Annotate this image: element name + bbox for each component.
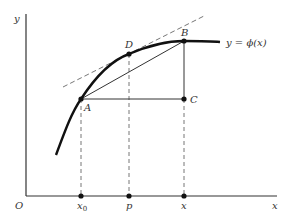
curve-label: y = ϕ(x) <box>225 37 267 48</box>
point-b <box>181 38 186 43</box>
label-a: A <box>83 102 91 113</box>
label-c: C <box>190 94 198 105</box>
point-p <box>126 193 131 198</box>
point-c <box>181 96 186 101</box>
tick-label-x0: x0 <box>77 200 87 213</box>
label-b: B <box>180 27 188 38</box>
tick-label-x: x <box>181 200 187 211</box>
point-d <box>126 51 131 56</box>
label-d: D <box>124 39 133 50</box>
mean-value-diagram: y O x A D B C y = ϕ(x) x0 p x <box>0 0 291 218</box>
origin-label: O <box>15 200 23 211</box>
point-x <box>181 193 186 198</box>
point-x0 <box>78 193 83 198</box>
y-axis-label: y <box>13 13 20 24</box>
point-a <box>78 96 83 101</box>
tick-label-p: p <box>126 200 133 211</box>
x-axis-label: x <box>272 200 278 211</box>
